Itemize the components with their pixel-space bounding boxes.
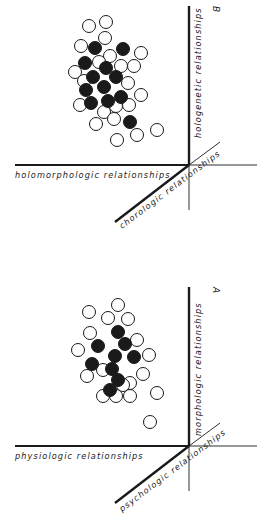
open-circle	[112, 299, 125, 312]
open-circle	[143, 349, 156, 362]
open-circle	[83, 306, 96, 319]
open-circle	[137, 368, 150, 381]
filled-circle	[87, 71, 100, 84]
panel-letter: B	[211, 6, 221, 12]
open-circle	[135, 47, 148, 60]
filled-circle	[104, 384, 117, 397]
open-circle	[131, 129, 144, 142]
open-circle	[131, 334, 144, 347]
panel-a: morphologic relationships physiologic re…	[14, 286, 257, 514]
open-circle	[90, 118, 103, 131]
panel-letter: A	[211, 286, 221, 293]
filled-circle	[79, 57, 92, 70]
open-circle	[83, 20, 96, 33]
panel-a-circles	[72, 299, 164, 429]
filled-circle	[117, 43, 130, 56]
filled-circle	[124, 116, 137, 129]
filled-circle	[100, 62, 113, 75]
panel-b: hologenetic relationships holomorphologi…	[15, 6, 257, 231]
vertical-axis-label: morphologic relationships	[193, 302, 203, 436]
open-circle	[99, 32, 112, 45]
open-circle	[102, 312, 115, 325]
open-circle	[144, 416, 157, 429]
open-circle	[84, 327, 97, 340]
filled-circle	[110, 71, 123, 84]
horizontal-axis-label: holomorphologic relationships	[15, 170, 171, 180]
open-circle	[151, 387, 164, 400]
open-circle	[151, 124, 164, 137]
filled-circle	[119, 338, 132, 351]
filled-circle	[115, 91, 128, 104]
filled-circle	[98, 81, 111, 94]
diagram-canvas: hologenetic relationships holomorphologi…	[0, 0, 268, 521]
filled-circle	[85, 97, 98, 110]
filled-circle	[128, 351, 141, 364]
filled-circle	[102, 95, 115, 108]
open-circle	[135, 89, 148, 102]
filled-circle	[89, 42, 102, 55]
filled-circle	[109, 350, 122, 363]
open-circle	[124, 390, 137, 403]
open-circle	[128, 60, 141, 73]
diagonal-axis-label: psychologic relationships	[116, 427, 227, 514]
diagonal-axis-label: chorologic relationships	[117, 148, 222, 231]
panel-b-axes	[15, 6, 257, 222]
open-circle	[111, 134, 124, 147]
horizontal-axis-label: physiologic relationships	[14, 451, 144, 461]
panel-b-circles	[69, 16, 164, 147]
filled-circle	[86, 358, 99, 371]
open-circle	[75, 40, 88, 53]
open-circle	[122, 77, 135, 90]
vertical-axis-label: hologenetic relationships	[193, 7, 203, 138]
filled-circle	[112, 326, 125, 339]
open-circle	[72, 344, 85, 357]
open-circle	[108, 113, 121, 126]
filled-circle	[80, 84, 93, 97]
open-circle	[122, 313, 135, 326]
filled-circle	[92, 340, 105, 353]
open-circle	[81, 370, 94, 383]
open-circle	[100, 16, 113, 29]
